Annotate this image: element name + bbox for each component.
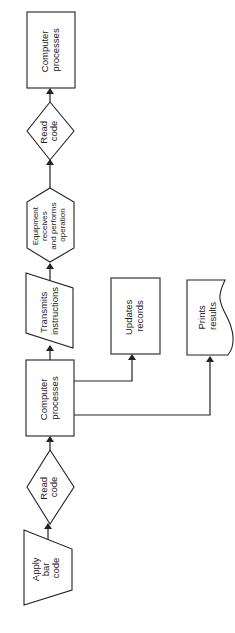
node-label-line: Updates [123,299,134,335]
svg-text:Updates records: Updates records [123,297,145,335]
edge-proc1-to-updates [74,355,132,381]
node-label-line: processes [49,376,60,420]
node-label-line: and performs [49,203,58,250]
edge-proc1-to-prints [74,357,210,415]
node-apply-bar-code: Apply bar code [24,530,72,605]
flowchart-diagram: Apply bar code Read code Computer proces… [0,0,235,633]
node-label-line: code [48,121,59,142]
node-label-line: Transmits [38,291,49,333]
node-read-code-2: Read code [27,102,74,160]
svg-text:Computer processes: Computer processes [38,376,60,420]
svg-text:Prints results: Prints results [196,302,218,330]
node-computer-processes-1: Computer processes [26,360,74,436]
node-label-line: receives [40,211,49,241]
node-prints-results: Prints results [187,280,233,355]
node-label-line: Computer [38,378,49,420]
node-computer-processes-2: Computer processes [27,12,75,88]
svg-text:Read code: Read code [38,118,59,143]
node-label-line: code [50,558,61,579]
node-equipment-operation: Equipment receives and performs operatio… [27,188,74,262]
svg-text:Read code: Read code [38,474,59,499]
node-label-line: Computer [39,30,50,72]
node-transmits-instructions: Transmits instructions [26,273,73,348]
node-read-code-1: Read code [27,450,74,524]
node-label-line: results [207,302,218,330]
node-label-line: Equipment [31,206,40,245]
node-label-line: Prints [196,305,207,330]
node-label-line: processes [50,28,61,72]
node-label-line: records [134,300,145,332]
svg-text:Transmits instructions: Transmits instructions [38,287,60,335]
node-label-line: operation [58,208,67,241]
svg-text:Computer processes: Computer processes [39,28,61,72]
node-label-line: instructions [49,287,60,335]
node-updates-records: Updates records [111,278,160,354]
node-label-line: code [48,477,59,498]
